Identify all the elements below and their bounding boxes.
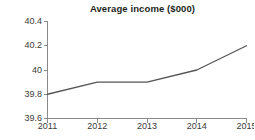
line-chart: Average income ($000) 40.4 40.2 40 39.8 <box>0 0 254 140</box>
y-tick-marks <box>44 22 48 119</box>
x-tick-label: 2012 <box>77 121 117 132</box>
x-tick-label: 2011 <box>28 121 68 132</box>
y-tick-label: 40 <box>4 66 42 75</box>
x-tick-label: 2013 <box>127 121 167 132</box>
y-tick-label: 40.4 <box>4 17 42 26</box>
y-tick-label: 40.2 <box>4 41 42 50</box>
y-tick-label: 39.8 <box>4 90 42 99</box>
x-tick-label: 2015 <box>227 121 255 132</box>
y-axis-labels: 40.4 40.2 40 39.8 39.6 <box>4 0 42 140</box>
x-axis-labels: 2011 2012 2013 2014 2015 <box>0 121 254 137</box>
data-series-line <box>48 46 247 95</box>
x-tick-label: 2014 <box>177 121 217 132</box>
